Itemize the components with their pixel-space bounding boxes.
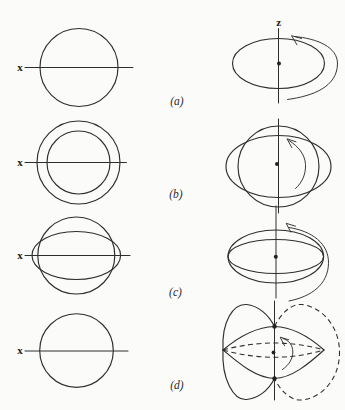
panel-c-left-cross-section: x xyxy=(17,217,130,294)
bottom-node-dot-d xyxy=(272,376,276,380)
panel-c-right-view xyxy=(228,206,329,301)
caption-b: (b) xyxy=(169,188,183,201)
panel-b-left-cross-section: x xyxy=(17,121,126,204)
rotation-arrow-a xyxy=(288,37,338,100)
panel-captions: (a) (b) (c) (d) xyxy=(169,95,184,392)
center-dot-a xyxy=(277,62,281,66)
panel-d-right-view xyxy=(223,301,340,400)
panel-a-left-cross-section: x xyxy=(17,29,133,107)
rotation-arrow-c xyxy=(289,228,329,302)
x-axis-label-d: x xyxy=(17,344,23,356)
x-axis-label-c: x xyxy=(17,249,23,261)
panel-b-right-view xyxy=(226,119,331,213)
figure-canvas: x x x x (a) (b) (c) (d) xyxy=(0,0,345,410)
panel-a-right-view: z xyxy=(233,16,338,103)
rotation-arrowhead-b xyxy=(287,139,296,148)
center-dot-c xyxy=(274,255,278,259)
center-dot-d xyxy=(272,351,276,355)
x-axis-label-b: x xyxy=(17,156,23,168)
top-node-dot-d xyxy=(272,324,276,328)
caption-c: (c) xyxy=(169,286,182,299)
center-dot-b xyxy=(275,162,279,166)
dashed-upper-rim-d xyxy=(223,343,324,350)
panel-d-left-cross-section: x xyxy=(17,314,128,388)
x-axis-label-a: x xyxy=(17,61,23,73)
rotation-arrowhead-d xyxy=(280,337,289,346)
caption-a: (a) xyxy=(170,95,184,108)
dashed-right-lobe-d xyxy=(275,304,340,400)
z-axis-label: z xyxy=(276,16,281,28)
caption-d: (d) xyxy=(170,379,184,392)
oscillation-modes-figure: x x x x (a) (b) (c) (d) xyxy=(0,0,345,410)
